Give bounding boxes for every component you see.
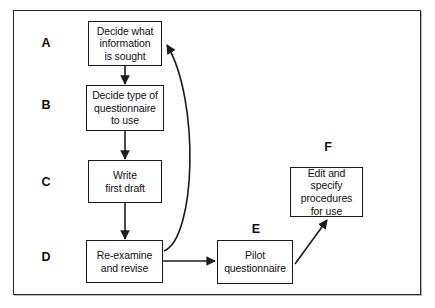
node-f[interactable]: Edit and specify procedures for use <box>290 167 363 217</box>
step-letter-a: A <box>37 36 55 50</box>
edge-d-to-a-feedback <box>164 45 190 251</box>
step-letter-b: B <box>37 98 55 112</box>
step-letter-e: E <box>247 222 265 236</box>
step-letter-c: C <box>37 175 55 189</box>
step-letter-f: F <box>319 140 337 154</box>
node-c-label: Write first draft <box>103 169 147 194</box>
node-d-label: Re-examine and revise <box>95 249 155 274</box>
node-f-label: Edit and specify procedures for use <box>299 167 355 217</box>
node-c[interactable]: Write first draft <box>88 160 162 203</box>
node-e[interactable]: Pilot questionnaire <box>217 240 293 284</box>
node-b[interactable]: Decide type of questionnaire to use <box>86 85 164 131</box>
node-e-label: Pilot questionnaire <box>222 249 288 274</box>
step-letter-d: D <box>37 250 55 264</box>
node-b-label: Decide type of questionnaire to use <box>90 89 160 127</box>
node-d[interactable]: Re-examine and revise <box>86 240 163 283</box>
node-a-label: Decide what information is sought <box>95 25 156 63</box>
flowchart-diagram: Decide what information is sought Decide… <box>0 0 435 308</box>
edge-e-to-f <box>295 220 327 264</box>
node-a[interactable]: Decide what information is sought <box>88 21 162 66</box>
